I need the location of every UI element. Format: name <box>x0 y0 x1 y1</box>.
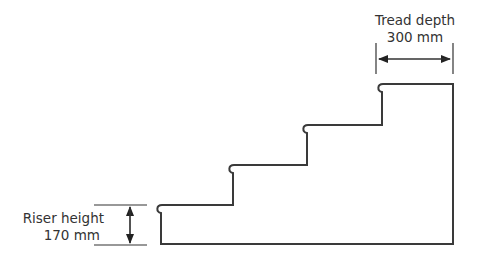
riser-height-value: 170 mm <box>14 227 100 243</box>
riser-height-label: Riser height <box>14 210 104 226</box>
tread-depth-value: 300 mm <box>362 29 468 45</box>
tread-depth-label: Tread depth <box>362 12 468 28</box>
tread-dimension <box>376 43 453 74</box>
staircase-profile <box>157 84 453 244</box>
